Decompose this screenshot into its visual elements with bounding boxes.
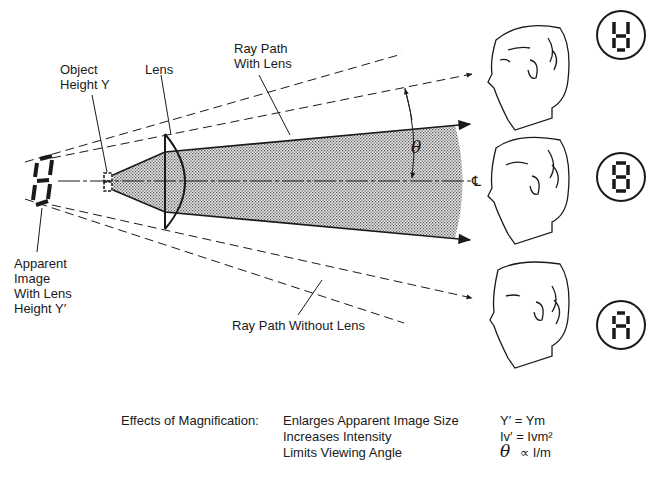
object-height-label-line1: Object xyxy=(60,62,110,77)
object-digit xyxy=(104,173,112,191)
observer-head-top xyxy=(488,26,569,130)
caption-effect-3: Limits Viewing Angle xyxy=(283,445,402,461)
display-view-center-badge xyxy=(596,152,646,202)
centerline-symbol: ℄ xyxy=(472,174,481,189)
theta-symbol: θ xyxy=(411,140,421,155)
ray-with-lens-line2: With Lens xyxy=(234,56,292,71)
apparent-image-line1: Apparent xyxy=(14,256,72,271)
caption-heading: Effects of Magnification: xyxy=(121,413,259,429)
display-view-bottom-badge xyxy=(596,300,646,350)
caption-formula-3: θ ∝ I/m xyxy=(500,443,551,461)
ray-path-with-lens-label: Ray Path With Lens xyxy=(234,41,292,71)
display-view-top-badge xyxy=(596,10,646,60)
object-height-label-line2: Height Y xyxy=(60,77,110,92)
object-height-leader xyxy=(92,95,107,172)
object-height-label: Object Height Y xyxy=(60,62,110,92)
magnifier-diagram: Object Height Y Lens Ray Path With Lens … xyxy=(0,0,669,482)
digit-full-eight-icon xyxy=(598,154,644,200)
ray-without-lens-leader xyxy=(298,280,322,315)
caption-formula-1: Y′ = Ym xyxy=(500,413,545,429)
apparent-image-line3: With Lens xyxy=(14,286,72,301)
apparent-image-line2: Image xyxy=(14,271,72,286)
observer-head-center xyxy=(488,137,569,244)
caption-effect-1: Enlarges Apparent Image Size xyxy=(283,413,459,429)
apparent-image-leader xyxy=(37,208,42,252)
digit-bottom-view-icon xyxy=(598,302,644,348)
apparent-image-line4: Height Y′ xyxy=(14,301,72,316)
caption-theta-symbol: θ xyxy=(500,441,510,461)
ray-with-lens-leader xyxy=(259,75,290,135)
ray-with-lens-line1: Ray Path xyxy=(234,41,292,56)
lens-leader xyxy=(161,75,171,135)
apparent-image-digit xyxy=(33,156,52,205)
apparent-image-label: Apparent Image With Lens Height Y′ xyxy=(14,256,72,316)
digit-top-view-icon xyxy=(598,12,644,58)
observer-head-bottom xyxy=(490,262,569,368)
ray-path-without-lens-label: Ray Path Without Lens xyxy=(232,318,365,333)
lens-label: Lens xyxy=(145,62,173,77)
caption-formula-3-rest: ∝ I/m xyxy=(520,445,551,460)
caption-effect-2: Increases Intensity xyxy=(283,429,391,445)
